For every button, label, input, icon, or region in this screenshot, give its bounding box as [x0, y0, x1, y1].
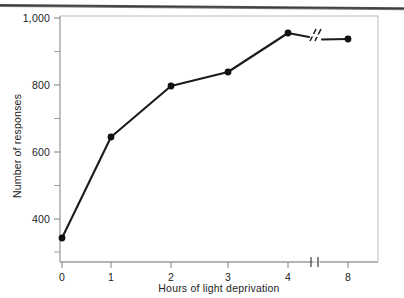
- x-axis-title: Hours of light deprivation: [60, 282, 378, 294]
- data-point-marker: [225, 69, 232, 76]
- data-series-line: [62, 33, 348, 238]
- data-point-marker: [59, 235, 66, 242]
- plot-frame: [60, 16, 378, 262]
- data-point-marker: [345, 36, 352, 43]
- data-point-marker: [285, 30, 292, 37]
- chart-figure: 1,000 800 600 400 0 1 2 3 4 8 Number of …: [0, 0, 404, 298]
- data-point-marker: [168, 83, 175, 90]
- line-break-icon: [310, 29, 321, 41]
- x-axis-ticks: [62, 262, 348, 268]
- data-point-marker: [108, 134, 115, 141]
- y-tick-label-1000: 1,000: [6, 12, 50, 24]
- y-axis-title: Number of responses: [11, 66, 23, 226]
- data-point-markers: [59, 30, 352, 242]
- line-chart-canvas: [0, 0, 404, 298]
